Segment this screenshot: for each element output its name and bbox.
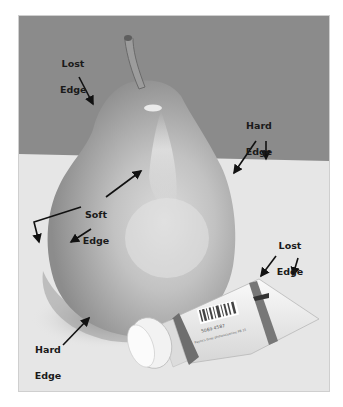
label-soft-edge: Soft Edge	[82, 195, 110, 260]
label-line: Edge	[276, 265, 304, 278]
label-lost-edge-tube: Lost Edge	[276, 226, 304, 291]
label-hard-edge-bottom: Hard Edge	[33, 330, 63, 395]
label-line: Hard	[33, 343, 63, 356]
label-line: Hard	[244, 119, 274, 132]
label-line: Soft	[82, 208, 110, 221]
label-lost-edge-top: Lost Edge	[60, 44, 86, 109]
label-line: Lost	[276, 239, 304, 252]
label-hard-edge-right: Hard Edge	[244, 106, 274, 171]
label-line: Lost	[60, 57, 86, 70]
label-line: Edge	[60, 83, 86, 96]
label-line: Edge	[33, 369, 63, 382]
label-line: Edge	[82, 234, 110, 247]
label-line: Edge	[244, 145, 274, 158]
